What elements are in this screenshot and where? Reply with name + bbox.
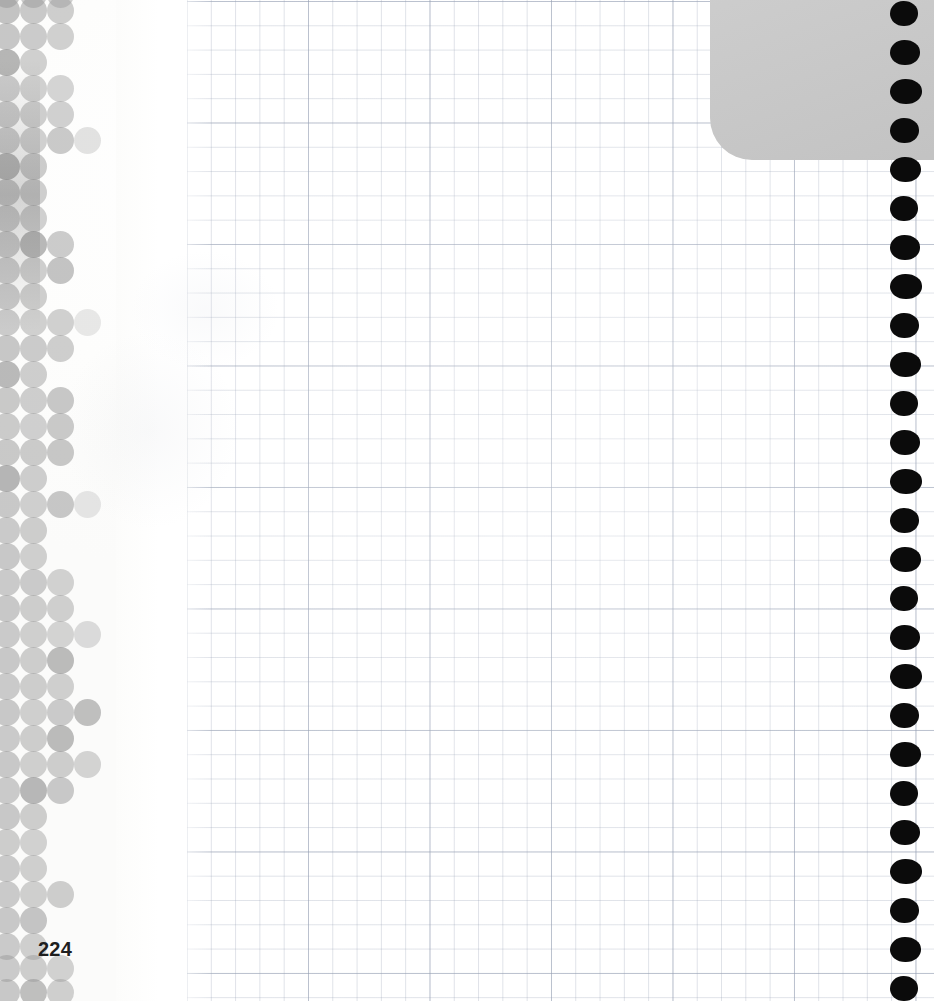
binding-hole [890,352,921,377]
binding-hole [890,118,919,143]
halftone-dot [0,335,20,362]
halftone-dot [0,205,20,232]
halftone-dot [20,153,47,180]
halftone-dot [20,907,47,934]
binding-hole [890,508,919,533]
halftone-dot [0,569,20,596]
halftone-dot [20,855,47,882]
halftone-dot [47,595,74,622]
halftone-dot [0,803,20,830]
binding-hole [890,235,920,260]
binding-hole [890,430,920,455]
binding-hole [890,313,919,338]
halftone-dot [47,413,74,440]
halftone-dot [20,491,47,518]
halftone-dot [0,751,20,778]
halftone-dot [0,0,20,24]
halftone-dot [20,829,47,856]
halftone-dot [20,257,47,284]
halftone-dot [47,75,74,102]
halftone-dot [74,621,101,648]
halftone-dot [0,491,20,518]
halftone-dot [20,101,47,128]
halftone-dot [0,979,20,1001]
halftone-dot [0,23,20,50]
halftone-dot [20,23,47,50]
binding-hole [890,703,919,728]
halftone-dot [20,595,47,622]
halftone-dot [0,517,20,544]
halftone-dot [47,335,74,362]
binding-hole [890,79,922,104]
halftone-dot [0,955,20,982]
binding-hole [890,742,921,767]
halftone-dot-pattern [0,0,130,1001]
halftone-dot [47,127,74,154]
halftone-dot [74,491,101,518]
halftone-dot [47,979,74,1001]
halftone-dot [20,231,47,258]
halftone-dot [47,621,74,648]
halftone-dot [0,855,20,882]
binding-hole [890,586,918,611]
halftone-dot [0,127,20,154]
halftone-dot [47,777,74,804]
halftone-dot [20,751,47,778]
binding-holes [872,0,934,1001]
halftone-dot [47,699,74,726]
halftone-dot [20,543,47,570]
halftone-dot [0,829,20,856]
halftone-dot [47,309,74,336]
binding-hole [890,781,918,806]
halftone-dot [0,387,20,414]
halftone-dot [20,569,47,596]
halftone-dot [0,231,20,258]
binding-hole [890,196,918,221]
binding-hole [890,1,918,26]
halftone-dot [47,387,74,414]
halftone-dot [20,127,47,154]
halftone-dot [0,101,20,128]
halftone-dot [0,621,20,648]
binding-hole [890,898,919,923]
halftone-dot [47,647,74,674]
halftone-dot [74,751,101,778]
halftone-dot [0,283,20,310]
binding-hole [890,976,918,1001]
halftone-dot [20,387,47,414]
halftone-dot [0,179,20,206]
halftone-dot [0,257,20,284]
halftone-dot [20,309,47,336]
halftone-dot [20,413,47,440]
halftone-dot [0,907,20,934]
halftone-dot [74,309,101,336]
halftone-dot [47,257,74,284]
halftone-dot [20,777,47,804]
halftone-dot [47,751,74,778]
halftone-dot [47,439,74,466]
halftone-dot [0,153,20,180]
halftone-dot [0,75,20,102]
halftone-dot [20,439,47,466]
halftone-dot [0,309,20,336]
halftone-dot [0,49,20,76]
halftone-dot [20,621,47,648]
halftone-dot [20,205,47,232]
halftone-dot [20,335,47,362]
halftone-dot [20,979,47,1001]
halftone-dot [0,595,20,622]
binding-hole [890,157,921,182]
halftone-dot [74,127,101,154]
halftone-dot [0,465,20,492]
binding-hole [890,547,921,572]
halftone-dot [47,569,74,596]
halftone-dot [0,725,20,752]
halftone-dot [20,517,47,544]
halftone-dot [0,413,20,440]
halftone-dot [20,361,47,388]
binding-hole [890,274,922,299]
binding-hole [890,40,920,65]
binding-hole [890,937,921,962]
halftone-dot [20,673,47,700]
binding-hole [890,469,922,494]
